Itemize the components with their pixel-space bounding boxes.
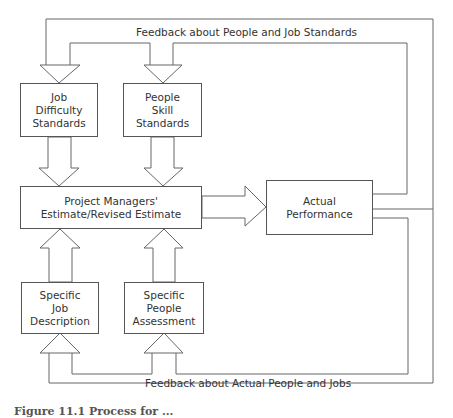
inner-top-feedback-line: [173, 43, 407, 194]
arrow-people-skill-to-estimate: [144, 137, 183, 186]
node-project-managers-estimate: Project Managers' Estimate/Revised Estim…: [20, 186, 202, 229]
node-specific-job-description: Specific Job Description: [21, 282, 99, 334]
outer-top-feedback-line: [46, 19, 433, 209]
node-line: Project Managers': [64, 195, 158, 208]
inner-bottom-feedback-line: [176, 218, 408, 374]
node-line: Estimate/Revised Estimate: [41, 208, 182, 221]
node-line: Performance: [286, 208, 353, 221]
arrow-people-assessment-to-estimate: [144, 229, 183, 282]
feedback-top-label: Feedback about People and Job Standards: [136, 26, 357, 38]
arrow-into-job-difficulty: [40, 65, 80, 83]
node-line: Specific: [144, 289, 185, 302]
node-people-skill-standards: People Skill Standards: [123, 83, 202, 137]
node-line: Standards: [32, 117, 85, 130]
node-actual-performance: Actual Performance: [266, 180, 373, 235]
node-line: Actual: [303, 195, 336, 208]
node-line: Difficulty: [36, 104, 83, 117]
arrow-job-difficulty-to-estimate: [39, 137, 79, 186]
node-line: Job: [51, 91, 67, 104]
node-line: Assessment: [133, 315, 196, 328]
node-line: Standards: [136, 117, 189, 130]
node-job-difficulty-standards: Job Difficulty Standards: [20, 83, 98, 137]
node-specific-people-assessment: Specific People Assessment: [124, 282, 204, 334]
node-line: Description: [30, 315, 90, 328]
node-line: Skill: [152, 104, 174, 117]
arrow-into-job-description: [40, 333, 80, 353]
arrow-into-people-skill: [144, 65, 182, 83]
node-line: People: [145, 91, 180, 104]
arrow-job-description-to-estimate: [40, 229, 80, 282]
arrow-estimate-to-actual-performance: [202, 186, 266, 226]
inner-top-feedback-branch: [70, 43, 150, 65]
node-line: Specific: [40, 289, 81, 302]
feedback-bottom-label: Feedback about Actual People and Jobs: [145, 377, 351, 389]
inner-bottom-feedback-branch: [72, 353, 152, 374]
node-line: People: [147, 302, 182, 315]
arrow-into-people-assessment: [144, 333, 183, 353]
figure-caption: Figure 11.1 Process for ...: [14, 405, 173, 418]
node-line: Job: [52, 302, 68, 315]
outer-bottom-feedback-line: [49, 209, 433, 383]
